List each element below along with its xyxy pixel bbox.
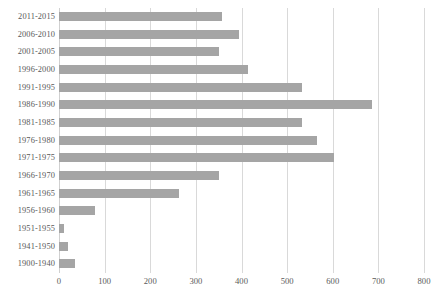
category-label: 1991-1995 (0, 83, 55, 93)
bar (59, 259, 75, 268)
category-label: 1951-1955 (0, 224, 55, 234)
category-label: 1971-1975 (0, 153, 55, 163)
bar-chart: 2011-20152006-20102001-20051996-20001991… (0, 0, 442, 301)
bar (59, 47, 219, 56)
value-tick-label: 100 (98, 276, 111, 287)
value-tick-label: 600 (326, 276, 339, 287)
value-tick-label: 400 (235, 276, 248, 287)
category-label: 1966-1970 (0, 171, 55, 181)
value-tick-label: 800 (418, 276, 431, 287)
bar (59, 12, 222, 21)
value-tick-label: 200 (144, 276, 157, 287)
bar (59, 136, 317, 145)
bar (59, 153, 334, 162)
category-label: 1996-2000 (0, 65, 55, 75)
bar (59, 65, 248, 74)
category-label: 1976-1980 (0, 136, 55, 146)
bar (59, 30, 239, 39)
bar (59, 83, 302, 92)
value-tick-label: 300 (189, 276, 202, 287)
category-label: 1986-1990 (0, 100, 55, 110)
category-label: 2006-2010 (0, 30, 55, 40)
plot-area (59, 8, 424, 273)
bar (59, 242, 68, 251)
category-label: 1956-1960 (0, 206, 55, 216)
bar (59, 100, 372, 109)
bar (59, 118, 302, 127)
category-label: 1961-1965 (0, 189, 55, 199)
category-label: 1981-1985 (0, 118, 55, 128)
category-label: 1941-1950 (0, 242, 55, 252)
category-label: 2011-2015 (0, 12, 55, 22)
category-axis-labels: 2011-20152006-20102001-20051996-20001991… (0, 8, 57, 273)
bar (59, 171, 219, 180)
bar-series (59, 8, 424, 273)
value-tick-label: 0 (57, 276, 61, 287)
bar (59, 206, 95, 215)
category-label: 1900-1940 (0, 259, 55, 269)
category-label: 2001-2005 (0, 47, 55, 57)
value-tick-label: 700 (372, 276, 385, 287)
value-tick-label: 500 (281, 276, 294, 287)
bar (59, 189, 179, 198)
gridline-800 (424, 8, 425, 273)
bar (59, 224, 64, 233)
value-axis-labels: 0100200300400500600700800 (59, 276, 424, 292)
